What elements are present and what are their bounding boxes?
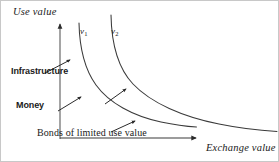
annotation-infrastructure: Infrastructure — [11, 67, 68, 76]
curve-label-v1: v1 — [80, 27, 87, 36]
curve-label-v2-subscript: 2 — [115, 30, 118, 37]
arrow-money-to-v2 — [105, 89, 126, 104]
annotation-bonds: Bonds of limited use value — [37, 128, 147, 138]
annotation-money: Money — [16, 101, 44, 110]
curve-v1 — [79, 23, 197, 127]
x-axis-label: Exchange value — [206, 143, 276, 154]
curve-label-v2: v2 — [111, 27, 118, 36]
y-axis-label: Use value — [13, 7, 57, 18]
curve-label-v1-subscript: 1 — [84, 30, 87, 37]
arrow-money-to-v1 — [58, 97, 81, 111]
diagram-canvas: Use value Exchange value v1 v2 Infrastru… — [0, 0, 279, 162]
